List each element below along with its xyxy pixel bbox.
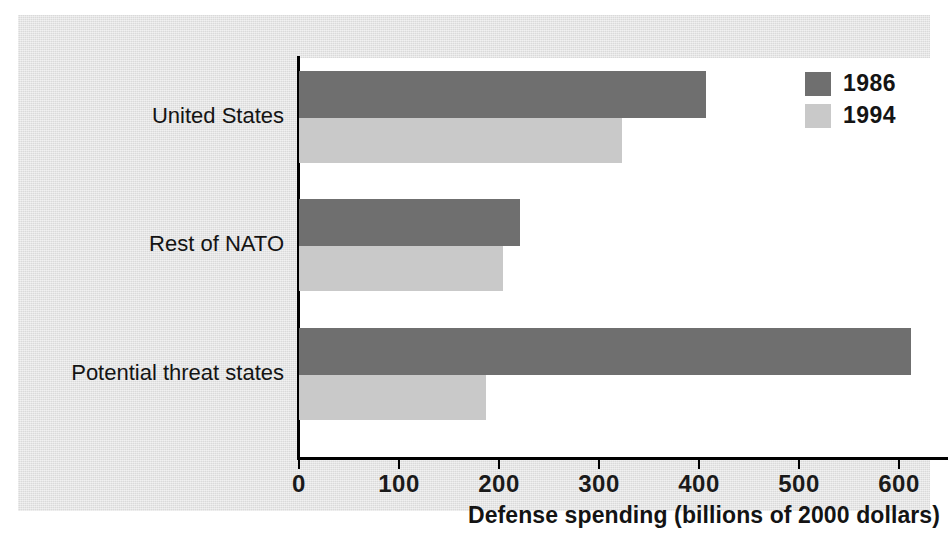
x-axis-line	[297, 457, 948, 460]
legend-item-1986: 1986	[805, 70, 896, 97]
x-tick-mark-300	[598, 460, 600, 469]
bar-rest-of-nato-1986	[299, 199, 520, 246]
x-tick-mark-200	[498, 460, 500, 469]
x-tick-mark-0	[298, 460, 300, 469]
category-label-rest-of-nato: Rest of NATO	[32, 231, 297, 257]
category-axis-labels: United States Rest of NATO Potential thr…	[18, 15, 297, 540]
x-tick-mark-600	[898, 460, 900, 469]
category-label-potential-threat-states: Potential threat states	[32, 360, 297, 386]
legend-swatch-1994-icon	[805, 104, 831, 128]
x-tick-mark-500	[798, 460, 800, 469]
x-tick-label-100: 100	[378, 470, 420, 498]
chart-legend: 1986 1994	[805, 70, 896, 134]
bar-potential-threat-states-1994	[299, 375, 486, 420]
x-tick-label-600: 600	[878, 470, 920, 498]
figure-panel: 0 100 200 300 400 500 600 United States …	[18, 15, 930, 511]
x-tick-label-200: 200	[478, 470, 520, 498]
x-tick-label-500: 500	[778, 470, 820, 498]
bar-rest-of-nato-1994	[299, 246, 503, 291]
category-label-united-states: United States	[32, 103, 297, 129]
x-axis-title: Defense spending (billions of 2000 dolla…	[18, 502, 948, 529]
x-tick-label-400: 400	[678, 470, 720, 498]
legend-label-1986: 1986	[843, 70, 896, 97]
legend-swatch-1986-icon	[805, 72, 831, 96]
legend-label-1994: 1994	[843, 102, 896, 129]
x-tick-mark-400	[698, 460, 700, 469]
x-tick-mark-100	[398, 460, 400, 469]
legend-item-1994: 1994	[805, 102, 896, 129]
bar-united-states-1994	[299, 118, 622, 163]
bar-potential-threat-states-1986	[299, 328, 911, 375]
x-tick-label-300: 300	[578, 470, 620, 498]
bar-united-states-1986	[299, 71, 706, 118]
